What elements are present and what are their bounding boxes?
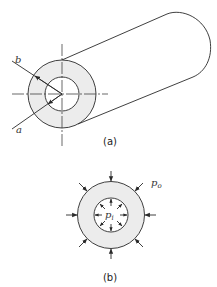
- cylinder-top-edge: [62, 14, 167, 60]
- label-po: po: [151, 177, 162, 190]
- panel-b: pi po (b): [66, 171, 162, 283]
- cylinder-far-end: [167, 12, 211, 77]
- label-b: b: [15, 54, 21, 65]
- label-a: a: [16, 124, 22, 135]
- cylinder-diagram: b a (a): [0, 0, 217, 287]
- caption-b: (b): [103, 272, 117, 283]
- caption-a: (a): [103, 136, 117, 147]
- panel-a: b a (a): [12, 12, 211, 147]
